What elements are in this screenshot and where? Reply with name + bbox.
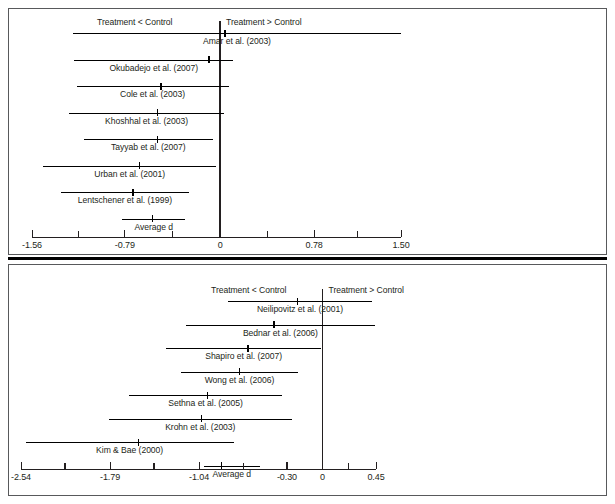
- axis-tick-label: 0.78: [306, 240, 323, 250]
- panel-tranexamic-acid: Treatment < ControlTreatment > ControlNe…: [8, 264, 607, 496]
- study-label: Sethna et al. (2005): [168, 398, 243, 408]
- axis-tick: [110, 462, 111, 469]
- confidence-interval-line: [26, 442, 234, 443]
- zero-reference-line: [219, 21, 220, 237]
- axis-tick-label: -0.30: [277, 472, 297, 482]
- forest-plot-figure: Treatment < ControlTreatment > ControlAm…: [0, 0, 615, 504]
- header-treatment-less-than-control: Treatment < Control: [211, 285, 286, 295]
- header-treatment-greater-than-control: Treatment > Control: [226, 17, 301, 27]
- effect-size-marker: [208, 56, 210, 63]
- confidence-interval-line: [84, 139, 213, 140]
- study-label: Khoshhal et al. (2003): [105, 116, 188, 126]
- x-axis: [21, 469, 376, 470]
- axis-tick-label: -1.04: [189, 472, 209, 482]
- axis-tick: [322, 462, 323, 469]
- axis-tick: [32, 230, 33, 237]
- axis-tick-label: 0: [218, 240, 223, 250]
- study-label: Kim & Bae (2000): [96, 445, 163, 455]
- axis-tick-label: -2.54: [11, 472, 31, 482]
- study-label: Bednar et al. (2006): [243, 328, 318, 338]
- study-label: Average d: [134, 222, 173, 232]
- study-label: Average d: [212, 469, 251, 479]
- axis-tick: [21, 462, 22, 469]
- axis-minor-tick: [78, 231, 79, 237]
- axis-minor-tick: [348, 463, 349, 469]
- axis-tick: [376, 462, 377, 469]
- header-treatment-greater-than-control: Treatment > Control: [329, 285, 404, 295]
- panel-aprotinin: Treatment < ControlTreatment > ControlAm…: [8, 8, 607, 255]
- axis-tick: [286, 462, 287, 469]
- axis-tick: [124, 230, 125, 237]
- axis-tick: [199, 462, 200, 469]
- study-label: Urban et al. (2001): [94, 169, 165, 179]
- confidence-interval-line: [73, 33, 401, 34]
- axis-tick-label: -1.56: [22, 240, 42, 250]
- axis-tick-label: -0.79: [115, 240, 135, 250]
- axis-tick-label: -1.79: [100, 472, 120, 482]
- study-label: Neilipovitz et al. (2001): [257, 304, 343, 314]
- axis-minor-tick: [153, 463, 154, 469]
- study-label: Wong et al. (2006): [205, 375, 275, 385]
- axis-tick-label: 0: [320, 472, 325, 482]
- axis-minor-tick: [172, 231, 173, 237]
- x-axis: [32, 237, 401, 238]
- axis-tick: [314, 230, 315, 237]
- study-label: Okubadejo et al. (2007): [109, 63, 198, 73]
- axis-minor-tick: [243, 463, 244, 469]
- study-label: Shapiro et al. (2007): [205, 351, 282, 361]
- confidence-interval-line: [204, 466, 260, 467]
- axis-tick-label: 1.50: [392, 240, 409, 250]
- confidence-interval-line: [228, 301, 373, 302]
- confidence-interval-line: [69, 113, 223, 114]
- confidence-interval-line: [186, 325, 375, 326]
- header-treatment-less-than-control: Treatment < Control: [97, 17, 172, 27]
- axis-tick-label: 0.45: [367, 472, 384, 482]
- study-label: Tayyab et al. (2007): [111, 142, 185, 152]
- axis-minor-tick: [267, 231, 268, 237]
- axis-tick: [220, 230, 221, 237]
- confidence-interval-line: [166, 348, 322, 349]
- study-label: Amar et al. (2003): [203, 36, 271, 46]
- confidence-interval-line: [61, 192, 189, 193]
- study-label: Krohn et al. (2003): [165, 422, 235, 432]
- confidence-interval-line: [122, 219, 185, 220]
- study-label: Lentschener et al. (1999): [78, 195, 172, 205]
- axis-minor-tick: [64, 463, 65, 469]
- zero-reference-line: [322, 289, 323, 469]
- study-label: Cole et al. (2003): [120, 89, 185, 99]
- confidence-interval-line: [77, 86, 229, 87]
- panel-divider: [8, 257, 607, 260]
- axis-tick: [401, 230, 402, 237]
- confidence-interval-line: [43, 166, 217, 167]
- axis-minor-tick: [357, 231, 358, 237]
